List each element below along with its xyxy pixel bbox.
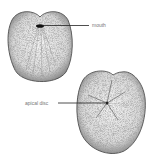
urchin-aboral-view <box>58 71 145 154</box>
apical-disc-label: apical disc <box>25 100 48 106</box>
apical-disc-icon <box>105 101 108 104</box>
urchin-diagram <box>0 0 150 165</box>
mouth-label: mouth <box>92 22 106 28</box>
urchin-oral-view <box>8 12 89 82</box>
mouth-icon <box>36 24 44 28</box>
